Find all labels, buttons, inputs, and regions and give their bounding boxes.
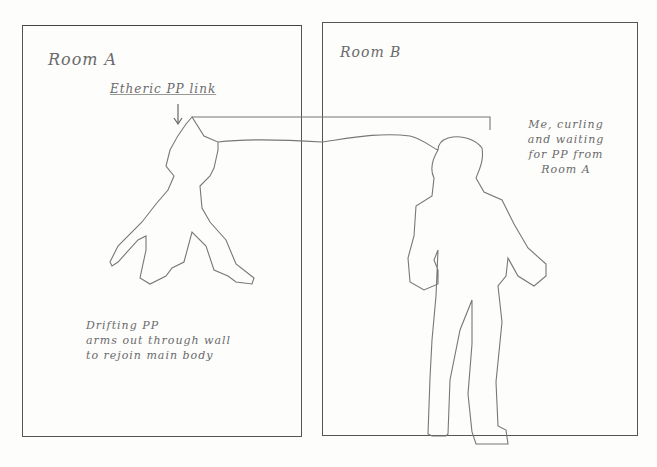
drifting-figure (110, 117, 254, 284)
arrow-down-icon (174, 104, 182, 124)
etheric-link (192, 117, 490, 150)
standing-figure (408, 137, 546, 444)
sketch-layer (0, 0, 657, 467)
